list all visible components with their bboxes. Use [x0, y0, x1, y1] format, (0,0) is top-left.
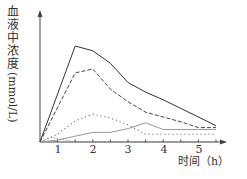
data-series	[40, 46, 216, 142]
x-tick-label: 2	[87, 143, 99, 156]
y-axis-label: 血 液 中 浓 度 (mmol/L)	[6, 6, 20, 123]
series-gray-solid	[40, 123, 216, 142]
series-solid	[40, 46, 216, 142]
axes	[38, 10, 228, 145]
x-tick-label: 3	[122, 143, 134, 156]
x-axis-label: 时间（h）	[178, 152, 229, 168]
x-tick-label: 1	[52, 143, 64, 156]
x-tick-label: 4	[158, 143, 170, 156]
y-label-unit: (mmol/L)	[6, 72, 19, 123]
series-dashed	[40, 69, 216, 142]
y-label-char: 度	[6, 58, 20, 71]
